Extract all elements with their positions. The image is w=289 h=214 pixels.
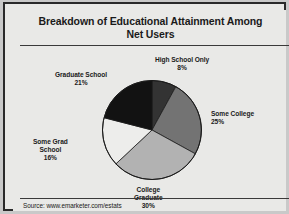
chart-panel: Breakdown of Educational Attainment Amon… — [13, 10, 286, 211]
pie-label-some-grad-school-text-1: Some Grad — [33, 138, 68, 145]
pie-label-some-grad-school-text-2: School — [40, 146, 62, 153]
chart-figure: Breakdown of Educational Attainment Amon… — [0, 0, 289, 214]
chart-title-line-1: Breakdown of Educational Attainment Amon… — [39, 15, 263, 27]
pie-label-high-school-only: High School Only 8% — [155, 56, 209, 72]
source-note: Source: www.emarketer.com/estats — [23, 202, 122, 209]
pie-label-graduate-school: Graduate School 21% — [55, 71, 107, 87]
pie-label-high-school-only-text: High School Only — [155, 56, 209, 63]
pie-label-graduate-school-value: 21% — [55, 79, 107, 87]
pie-label-high-school-only-value: 8% — [155, 64, 209, 72]
source-divider — [20, 198, 289, 199]
pie-label-graduate-school-text: Graduate School — [55, 71, 107, 78]
chart-title: Breakdown of Educational Attainment Amon… — [23, 15, 278, 40]
pie-label-some-grad-school-value: 16% — [33, 154, 68, 162]
pie-label-some-college-value: 25% — [211, 118, 254, 126]
pie-label-some-college-text: Some College — [211, 110, 254, 117]
chart-title-line-2: Net Users — [126, 28, 174, 40]
pie-svg — [102, 80, 202, 180]
pie-label-college-graduate-value: 30% — [134, 202, 163, 210]
pie-label-some-grad-school: Some Grad School 16% — [33, 138, 68, 161]
pie-chart — [102, 80, 202, 180]
pie-label-some-college: Some College 25% — [211, 110, 254, 126]
title-divider — [20, 45, 289, 46]
pie-label-college-graduate-text-1: College — [137, 186, 160, 193]
chart-frame: Breakdown of Educational Attainment Amon… — [3, 2, 286, 211]
